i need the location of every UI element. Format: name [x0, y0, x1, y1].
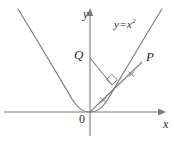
curve-equation-exponent: 2: [132, 17, 136, 25]
figure-canvas: y x 0 Q P y=x2: [0, 0, 174, 141]
x-axis-arrow-icon: [158, 109, 166, 116]
origin-label: 0: [79, 113, 85, 125]
y-axis-label: y: [83, 8, 88, 20]
parabola-diagram-svg: [0, 0, 174, 141]
point-label-p: P: [146, 50, 154, 63]
curve-equation-operator: =: [119, 18, 127, 30]
x-axis: [4, 109, 166, 116]
curve-equation-label: y=x2: [114, 19, 136, 30]
point-label-q: Q: [74, 48, 83, 61]
x-axis-label: x: [163, 118, 168, 130]
y-axis: [87, 8, 94, 136]
segment-origin-to-p: [90, 62, 142, 112]
segment-q-to-vertex: [90, 58, 112, 85]
